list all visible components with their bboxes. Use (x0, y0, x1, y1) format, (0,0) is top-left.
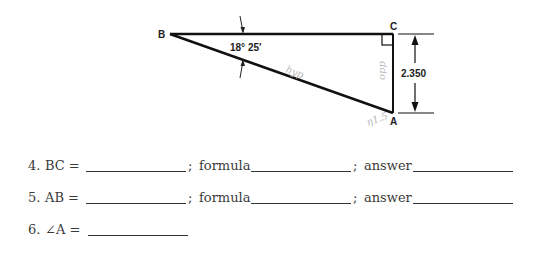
answer-label: answer (364, 158, 412, 174)
vertex-c-label: C (390, 21, 397, 32)
arrowhead-down-icon (412, 102, 419, 112)
separator: ; (188, 190, 192, 206)
separator: ; (353, 158, 357, 174)
right-triangle-diagram: 18° 25′ 2.350 B C A hyp opp η1.5 (0, 0, 543, 140)
ab-formula-blank[interactable] (251, 203, 351, 204)
question-number: 4. (28, 158, 40, 174)
ab-value-blank[interactable] (86, 203, 186, 204)
question-lhs: BC = (45, 158, 80, 174)
answer-label: answer (364, 190, 412, 206)
question-lhs: ∠A = (45, 222, 80, 238)
question-4: 4. BC = ; formula ; answer (28, 158, 543, 174)
vertex-a-label: A (390, 116, 397, 127)
formula-label: formula (199, 158, 250, 174)
question-5: 5. AB = ; formula ; answer (28, 190, 543, 206)
bc-answer-blank[interactable] (413, 171, 513, 172)
ab-answer-blank[interactable] (413, 203, 513, 204)
angle-a-blank[interactable] (88, 235, 188, 236)
angle-b-value: 18° 25′ (230, 42, 262, 53)
arrowhead-up-icon (412, 35, 419, 45)
bc-value-blank[interactable] (86, 171, 186, 172)
side-ab-hypotenuse (170, 34, 393, 113)
dimension-ca-value: 2.350 (401, 68, 426, 79)
vertex-b-label: B (158, 29, 165, 40)
bc-formula-blank[interactable] (251, 171, 351, 172)
question-number: 5. (28, 190, 40, 206)
question-number: 6. (28, 222, 40, 238)
formula-label: formula (199, 190, 250, 206)
handwritten-opp: opp (376, 61, 387, 80)
question-6: 6. ∠A = (28, 222, 543, 238)
handwritten-angle: η1.5 (365, 110, 389, 128)
separator: ; (353, 190, 357, 206)
question-lhs: AB = (45, 190, 79, 206)
right-angle-marker (382, 34, 393, 45)
separator: ; (188, 158, 192, 174)
